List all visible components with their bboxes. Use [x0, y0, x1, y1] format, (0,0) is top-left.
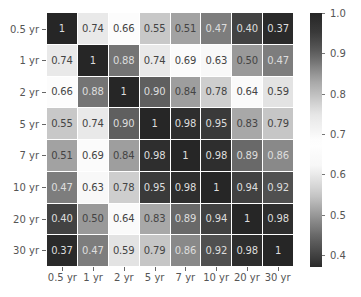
- y-tick-label: 7 yr: [19, 150, 39, 161]
- heatmap-cell: 0.64: [232, 77, 262, 108]
- heatmap-cell: 0.88: [78, 77, 108, 108]
- heatmap-cell: 1: [78, 45, 108, 76]
- heatmap-cell: 0.78: [201, 77, 231, 108]
- heatmap-cell: 0.69: [78, 140, 108, 171]
- heatmap-cell: 1: [109, 77, 139, 108]
- heatmap-cell: 0.90: [140, 77, 170, 108]
- x-tick-mark: [185, 267, 186, 271]
- colorbar-tick-label: 1.0: [330, 8, 346, 19]
- colorbar-tick-label: 0.7: [330, 128, 346, 139]
- heatmap-cell: 0.63: [78, 172, 108, 203]
- y-tick-mark: [42, 60, 46, 61]
- x-tick-mark: [62, 267, 63, 271]
- y-tick-label: 5 yr: [19, 118, 39, 129]
- heatmap-cell: 0.40: [232, 13, 262, 44]
- heatmap-cell: 0.88: [109, 45, 139, 76]
- heatmap-cell: 0.74: [140, 45, 170, 76]
- heatmap-cell: 0.92: [263, 172, 293, 203]
- heatmap-cell: 0.84: [171, 77, 201, 108]
- x-tick-label: 0.5 yr: [48, 272, 77, 283]
- x-tick-mark: [216, 267, 217, 271]
- y-tick-label: 20 yr: [13, 213, 39, 224]
- x-tick-label: 1 yr: [83, 272, 103, 283]
- colorbar-tick-mark: [322, 255, 325, 256]
- heatmap-cell: 1: [201, 172, 231, 203]
- heatmap-cell: 0.98: [263, 204, 293, 235]
- colorbar-tick-label: 0.4: [330, 249, 346, 260]
- heatmap-cell: 0.74: [78, 108, 108, 139]
- heatmap-cell: 1: [140, 108, 170, 139]
- heatmap-cell: 0.79: [140, 235, 170, 266]
- y-tick-mark: [42, 124, 46, 125]
- colorbar-tick-label: 0.5: [330, 209, 346, 220]
- colorbar-tick-mark: [322, 94, 325, 95]
- heatmap-cell: 0.83: [140, 204, 170, 235]
- y-tick-label: 0.5 yr: [10, 23, 39, 34]
- y-tick-label: 10 yr: [13, 181, 39, 192]
- heatmap-cell: 1: [263, 235, 293, 266]
- heatmap-cell: 0.84: [109, 140, 139, 171]
- colorbar-tick-mark: [322, 13, 325, 14]
- x-tick-label: 30 yr: [265, 272, 291, 283]
- heatmap-cell: 0.98: [140, 140, 170, 171]
- heatmap-cell: 0.51: [171, 13, 201, 44]
- x-tick-mark: [278, 267, 279, 271]
- x-tick-label: 5 yr: [145, 272, 165, 283]
- x-tick-mark: [155, 267, 156, 271]
- heatmap-cell: 0.83: [232, 108, 262, 139]
- heatmap-cell: 1: [171, 140, 201, 171]
- heatmap-cell: 0.50: [232, 45, 262, 76]
- y-tick-mark: [42, 92, 46, 93]
- heatmap-cell: 0.92: [201, 235, 231, 266]
- colorbar-tick-mark: [322, 134, 325, 135]
- colorbar-tick-label: 0.6: [330, 169, 346, 180]
- colorbar-tick-mark: [322, 53, 325, 54]
- x-tick-label: 10 yr: [203, 272, 229, 283]
- heatmap-cell: 0.98: [201, 140, 231, 171]
- heatmap-cell: 0.74: [47, 45, 77, 76]
- heatmap-cell: 1: [232, 204, 262, 235]
- heatmap-cell: 0.47: [78, 235, 108, 266]
- heatmap-cell: 0.40: [47, 204, 77, 235]
- x-tick-mark: [124, 267, 125, 271]
- colorbar-tick-mark: [322, 215, 325, 216]
- colorbar-tick-mark: [322, 174, 325, 175]
- x-tick-label: 2 yr: [114, 272, 134, 283]
- heatmap-cell: 0.66: [47, 77, 77, 108]
- heatmap-cell: 0.66: [109, 13, 139, 44]
- y-tick-label: 1 yr: [19, 55, 39, 66]
- heatmap-cell: 0.47: [263, 45, 293, 76]
- heatmap-cell: 0.94: [201, 204, 231, 235]
- heatmap-cell: 0.37: [263, 13, 293, 44]
- y-tick-mark: [42, 250, 46, 251]
- y-tick-mark: [42, 219, 46, 220]
- heatmap-cell: 0.95: [140, 172, 170, 203]
- y-tick-mark: [42, 187, 46, 188]
- heatmap-cell: 0.98: [171, 172, 201, 203]
- heatmap-cell: 0.90: [109, 108, 139, 139]
- heatmap-cell: 0.50: [78, 204, 108, 235]
- heatmap-grid: 10.740.660.550.510.470.400.370.7410.880.…: [47, 13, 293, 266]
- heatmap-cell: 0.37: [47, 235, 77, 266]
- heatmap-cell: 0.51: [47, 140, 77, 171]
- heatmap-cell: 0.98: [232, 235, 262, 266]
- x-tick-mark: [93, 267, 94, 271]
- y-tick-mark: [42, 155, 46, 156]
- heatmap-cell: 0.59: [263, 77, 293, 108]
- y-tick-label: 30 yr: [13, 245, 39, 256]
- y-tick-mark: [42, 29, 46, 30]
- heatmap-cell: 0.95: [201, 108, 231, 139]
- heatmap-cell: 0.86: [171, 235, 201, 266]
- heatmap-cell: 0.94: [232, 172, 262, 203]
- heatmap-cell: 0.89: [171, 204, 201, 235]
- heatmap-cell: 0.47: [47, 172, 77, 203]
- heatmap-cell: 0.78: [109, 172, 139, 203]
- heatmap-cell: 0.55: [140, 13, 170, 44]
- colorbar-tick-label: 0.9: [330, 48, 346, 59]
- y-tick-label: 2 yr: [19, 87, 39, 98]
- x-tick-label: 7 yr: [176, 272, 196, 283]
- heatmap-cell: 0.69: [171, 45, 201, 76]
- heatmap-cell: 0.59: [109, 235, 139, 266]
- heatmap-cell: 0.86: [263, 140, 293, 171]
- heatmap-cell: 0.89: [232, 140, 262, 171]
